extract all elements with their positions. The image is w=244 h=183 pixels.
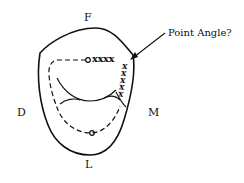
annotation-point-angle: Point Angle? [168, 28, 232, 38]
tooth-diagram: xxxx xxxxx F D M L Point Angle? [0, 0, 244, 183]
fossa-curve-upper [57, 78, 116, 101]
annotation-arrow-line [134, 33, 165, 57]
label-l: L [85, 159, 92, 170]
label-d: D [17, 107, 26, 118]
x-marks-top: xxxx [92, 54, 114, 64]
point-top [86, 58, 91, 63]
label-f: F [84, 12, 92, 23]
fossa-curve-lower [60, 96, 120, 104]
label-m: M [148, 107, 159, 118]
